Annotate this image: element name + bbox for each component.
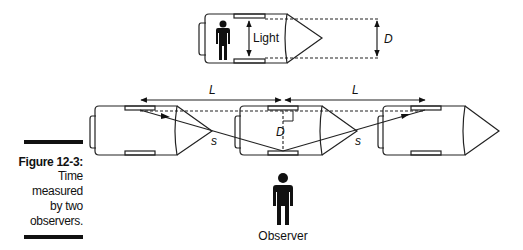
light-clock-diagram: Light D L L D s s: [0, 0, 523, 250]
length-label: L: [209, 83, 216, 97]
distance-label: D: [276, 125, 285, 139]
path-label: s: [355, 134, 361, 148]
person-icon: [216, 21, 230, 61]
rocket-right: [378, 106, 499, 155]
observer-label: Observer: [258, 229, 307, 243]
length-label: L: [352, 83, 359, 97]
observer-icon: [273, 173, 293, 225]
path-label: s: [211, 134, 217, 148]
distance-label: D: [384, 32, 393, 46]
light-direction-arrow: [401, 114, 410, 119]
light-label: Light: [253, 31, 280, 45]
